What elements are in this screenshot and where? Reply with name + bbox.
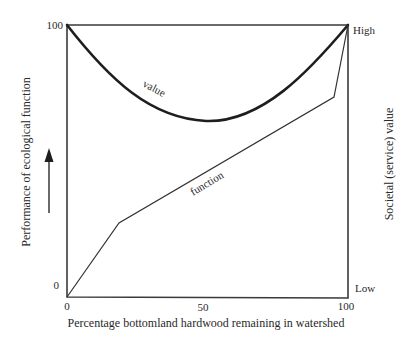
value-curve-label: value xyxy=(141,77,168,99)
x-tick-50: 50 xyxy=(198,301,210,313)
arrow-up-icon xyxy=(45,148,54,162)
y-right-low: Low xyxy=(355,282,375,294)
function-curve-label: function xyxy=(188,168,226,197)
y-axis-left-title: Performance of ecological function xyxy=(19,77,33,247)
y-left-tick-0: 0 xyxy=(54,279,60,291)
x-tick-100: 100 xyxy=(338,300,355,312)
y-right-high: High xyxy=(353,24,376,36)
diagram-canvas: 100 0 0 50 100 High Low value function P… xyxy=(0,0,419,347)
x-axis-title: Percentage bottomland hardwood remaining… xyxy=(68,316,345,330)
function-line xyxy=(67,25,348,297)
x-tick-0: 0 xyxy=(64,300,70,312)
value-curve xyxy=(67,25,348,121)
y-left-tick-100: 100 xyxy=(47,19,64,31)
plot-frame xyxy=(67,25,348,298)
y-axis-right-title: Societal (service) value xyxy=(382,108,396,221)
